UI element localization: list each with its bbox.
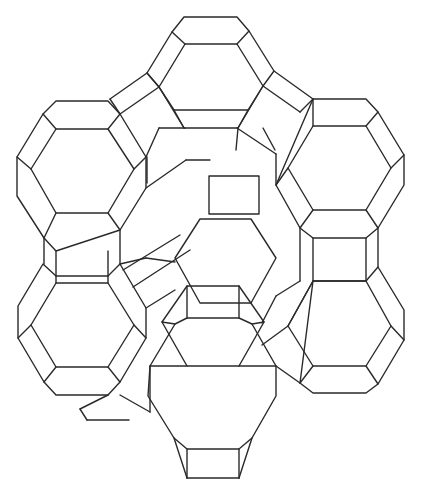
connector-edge <box>147 73 159 87</box>
prism-strut <box>238 110 248 128</box>
zeolite-framework-diagram <box>0 0 421 488</box>
prism-strut <box>366 210 378 228</box>
hex-prism-upper-right <box>276 99 404 238</box>
connector-edge <box>263 86 300 112</box>
supercage-back-hexagon <box>175 176 276 303</box>
prism-strut <box>134 325 146 338</box>
prism-strut <box>108 114 120 129</box>
connector-edge <box>123 235 180 270</box>
prism-strut <box>44 213 56 238</box>
hex-prism-inner-ring <box>31 129 134 213</box>
connector-edge <box>262 296 276 323</box>
connector-edge <box>80 395 108 409</box>
prism-strut <box>237 31 249 44</box>
hex-prism-outer-edge <box>17 101 146 251</box>
prism-strut <box>17 157 31 169</box>
prism-strut <box>366 112 378 126</box>
hex-prism-inner-ring <box>162 286 264 366</box>
connector-edge <box>146 160 186 188</box>
prism-strut <box>108 213 120 230</box>
hex-prism-inner-ring <box>31 283 134 367</box>
connector-edge <box>236 128 238 150</box>
prism-strut <box>391 326 404 340</box>
connector-edge <box>146 258 175 262</box>
connector-edge <box>110 73 147 99</box>
connector-edge <box>276 366 300 383</box>
prism-strut <box>43 114 56 129</box>
prism-strut <box>18 325 31 338</box>
connector-edge <box>300 99 313 112</box>
hex-prism-upper-left <box>17 101 146 251</box>
connector-edge <box>120 87 159 114</box>
prism-strut <box>44 367 56 382</box>
hex-prism-inner-ring <box>159 44 263 128</box>
square-connector-cells <box>44 71 378 478</box>
hexagonal-prisms <box>17 17 404 449</box>
connector-edge <box>146 290 175 308</box>
connector-edge <box>274 71 313 99</box>
prism-strut <box>162 322 175 324</box>
connector-edge <box>276 281 300 296</box>
connector-edge <box>110 99 120 114</box>
prism-strut <box>174 110 184 128</box>
connector-edge <box>80 409 87 420</box>
back-square-cell <box>209 176 259 214</box>
connector-edge <box>146 128 159 157</box>
prism-strut <box>108 367 120 382</box>
connector-edge <box>120 395 150 412</box>
hex-prism-outer-edge <box>147 17 274 110</box>
hex-prism-top-center <box>147 17 274 128</box>
prism-strut <box>288 281 313 326</box>
prism-strut <box>300 210 313 228</box>
hex-prism-lower-right <box>288 267 404 393</box>
prism-strut <box>391 155 404 168</box>
prism-strut <box>172 32 185 44</box>
hex-prism-outer-edge <box>148 318 276 449</box>
hex-prism-inner-ring <box>288 126 391 210</box>
hex-prism-outer-edge <box>276 99 404 238</box>
prism-strut <box>134 157 146 169</box>
prism-strut <box>366 366 378 384</box>
hex-prism-lower-left <box>18 264 146 395</box>
hex-prism-bottom-center <box>148 286 276 449</box>
connector-edge <box>262 326 288 345</box>
back-hexagon-ring <box>175 219 276 303</box>
